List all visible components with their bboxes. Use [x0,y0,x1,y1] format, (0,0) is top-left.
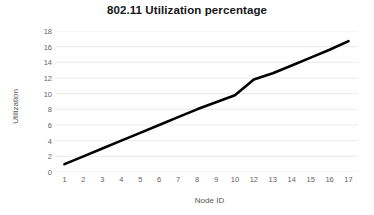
x-axis-tick-label: 2 [81,175,85,184]
x-axis-tick-label: 13 [269,175,277,184]
x-axis-tick-label: 10 [231,175,239,184]
x-axis-tick-label: 17 [344,175,352,184]
x-axis-tick-label: 3 [100,175,104,184]
x-axis-tick-label: 6 [157,175,161,184]
y-axis-title-label: Utilization [11,89,20,124]
x-axis-tick-label: 1 [62,175,66,184]
x-axis-tick-label: 5 [138,175,142,184]
x-axis-tick-label: 16 [325,175,333,184]
x-axis-tick-labels: 12345678910121314151617 [55,175,358,187]
y-axis-tick-label: 12 [44,74,52,83]
y-axis-tick-labels: 024681012141618 [28,31,52,172]
y-axis-tick-label: 14 [44,58,52,67]
chart-container: 802.11 Utilization percentage Utilizatio… [0,0,374,215]
y-axis-tick-label: 18 [44,27,52,36]
x-axis-tick-label: 9 [214,175,218,184]
chart-title: 802.11 Utilization percentage [0,4,374,16]
y-axis-tick-label: 8 [48,105,52,114]
x-axis-tick-label: 14 [288,175,296,184]
plot-area [55,31,358,172]
x-axis-tick-label: 8 [195,175,199,184]
y-axis-tick-label: 0 [48,168,52,177]
x-axis-tick-label: 7 [176,175,180,184]
x-axis-title: Node ID [57,196,362,205]
y-axis-tick-label: 16 [44,42,52,51]
y-axis-title: Utilization [8,60,22,152]
data-series-line [55,31,358,172]
series-utilization [64,41,348,164]
x-axis-tick-label: 15 [306,175,314,184]
x-axis-tick-label: 4 [119,175,123,184]
y-axis-tick-label: 6 [48,121,52,130]
y-axis-tick-label: 2 [48,152,52,161]
x-axis-tick-label: 12 [250,175,258,184]
y-axis-tick-label: 4 [48,136,52,145]
y-axis-tick-label: 10 [44,89,52,98]
